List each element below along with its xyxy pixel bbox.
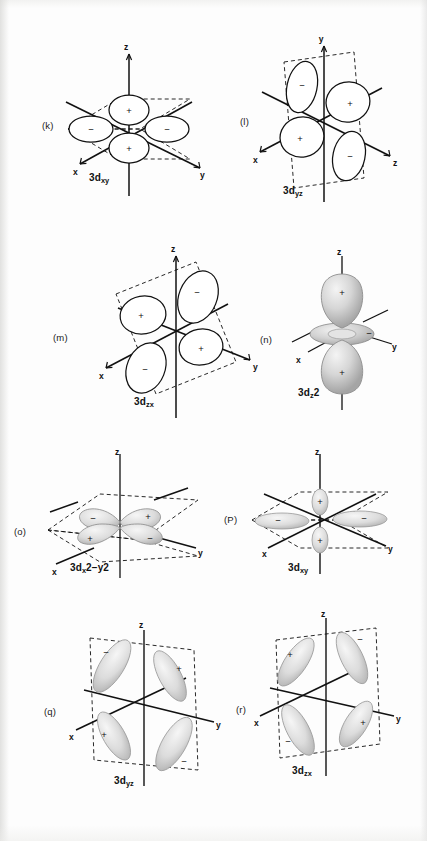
reference-plane-o-upper — [48, 494, 198, 540]
orbital-sub-m: zx — [146, 400, 154, 409]
sign-n-top: + — [339, 287, 345, 298]
panel-q-drawing: − + + − z x y — [62, 620, 247, 805]
panel-letter-l: (l) — [240, 116, 249, 127]
lobe-n-top — [321, 274, 362, 328]
axis-label-z-r: z — [321, 609, 325, 619]
axis-label-x-n: x — [296, 355, 301, 365]
panel-p: + + − − z x y (P) 3dxy — [236, 452, 421, 602]
sign-q-upper-left: − — [103, 647, 109, 658]
sign-r-lower-right: + — [360, 717, 366, 728]
axis-label-x-o: x — [52, 567, 57, 577]
sign-p-right: − — [361, 513, 367, 524]
axis-label-x-l: x — [253, 155, 258, 165]
lobe-o-lower-right — [120, 524, 162, 544]
orbital-label-q: 3dyz — [114, 775, 134, 788]
axis-label-y-o: y — [198, 548, 203, 558]
panel-letter-k: (k) — [42, 120, 54, 131]
panel-r-drawing: + − − + z x y — [248, 618, 423, 803]
axis-label-y-m: y — [253, 362, 258, 372]
axis-label-z-m: z — [171, 244, 175, 254]
sign-m-lower-right: + — [198, 343, 204, 354]
panel-l-drawing: − + + − y x z — [232, 30, 412, 215]
scan-edge-top — [0, 0, 427, 8]
panel-letter-r: (r) — [236, 704, 246, 715]
scan-edge-left — [0, 0, 9, 841]
panel-letter-p: (P) — [224, 514, 237, 525]
axis-label-y-n: y — [392, 342, 397, 352]
sign-q-upper-right: + — [176, 663, 182, 674]
sign-r-upper-left: + — [287, 649, 293, 660]
axis-label-x-r: x — [254, 718, 259, 728]
panel-o: − + + − z x y (o) 3dx2−y2 — [28, 452, 218, 602]
lobe-q-upper-left — [86, 634, 138, 698]
sign-o-upper-left: − — [90, 513, 96, 524]
orbital-sub-k: xy — [101, 176, 109, 185]
orbital-label-o: 3dx2−y2 — [70, 562, 109, 575]
sign-r-upper-right: − — [357, 634, 363, 645]
orbital-sup-o: 2−y2 — [86, 562, 109, 573]
sign-m-upper-right: − — [194, 287, 200, 298]
sign-q-lower-right: − — [181, 756, 187, 767]
orbital-sub-l: yz — [295, 189, 303, 198]
panel-letter-o: (o) — [14, 526, 26, 537]
sign-o-lower-right: − — [147, 533, 153, 544]
sign-l-upper-left: − — [299, 80, 305, 91]
panel-q: − + + − z x y (q) 3dyz — [62, 620, 247, 805]
torus-inner-n — [328, 329, 356, 339]
panel-k-drawing: + + − − z x y — [40, 36, 220, 206]
orbital-label-r: 3dzx — [292, 765, 312, 778]
panel-o-drawing: − + + − z x y — [28, 452, 218, 602]
figure-page: + + − − z x y (k) 3dxy — [0, 0, 427, 841]
axis-y-n-upper — [363, 310, 388, 322]
axis-x-o-seg — [50, 502, 78, 512]
sign-l-lower-right: − — [347, 151, 353, 162]
panel-l: − + + − y x z (l) 3dyz — [232, 30, 412, 215]
orbital-sub-r: zx — [304, 769, 312, 778]
axis-label-y-k: y — [200, 170, 205, 180]
axis-label-x-m: x — [99, 371, 104, 381]
sign-n-torus: − — [366, 328, 372, 339]
orbital-label-m: 3dzx — [134, 396, 154, 409]
lobe-r-lower-left — [275, 700, 321, 760]
sign-k-left: − — [88, 124, 94, 135]
sign-r-lower-left: − — [285, 736, 291, 747]
axis-label-y-q: y — [216, 720, 221, 730]
lobe-r-upper-left — [271, 633, 321, 692]
panel-n: + + − z x y (n) 3dz2 — [268, 248, 418, 428]
orbital-sub-p: xy — [300, 566, 308, 575]
sign-q-lower-left: + — [101, 729, 107, 740]
lobe-q-upper-right — [147, 646, 193, 706]
sign-l-upper-right: + — [347, 98, 353, 109]
sign-m-lower-left: − — [142, 364, 148, 375]
sign-k-right: − — [164, 124, 170, 135]
lobe-p-left — [255, 513, 309, 529]
panel-n-drawing: + + − z x y — [268, 248, 418, 428]
panel-letter-n: (n) — [260, 334, 272, 345]
orbital-label-l: 3dyz — [283, 185, 303, 198]
sign-k-top: + — [126, 105, 132, 116]
orbital-sub-q: yz — [126, 779, 134, 788]
lobe-o-lower-left — [78, 524, 120, 544]
axis-label-y-l: y — [319, 34, 324, 44]
panel-letter-m: (m) — [53, 332, 68, 343]
scan-edge-bottom — [0, 825, 427, 841]
sign-p-top: + — [317, 496, 323, 507]
panel-letter-q: (q) — [44, 706, 56, 717]
axis-label-z-l: z — [393, 158, 397, 168]
axis-label-y-r: y — [396, 714, 401, 724]
axis-label-z-o: z — [115, 447, 119, 457]
lobe-q-lower-right — [149, 712, 200, 776]
lobe-q-lower-left — [91, 707, 137, 765]
orbital-label-k: 3dxy — [89, 172, 109, 185]
sign-n-bottom: + — [339, 367, 345, 378]
axis-label-x-p: x — [262, 549, 267, 559]
panel-p-drawing: + + − − z x y — [236, 452, 421, 602]
orbital-label-p: 3dxy — [288, 562, 308, 575]
panel-m-drawing: − + + − z x y — [88, 242, 278, 432]
panel-k: + + − − z x y (k) 3dxy — [40, 36, 220, 206]
sign-p-bottom: + — [317, 535, 323, 546]
panel-r: + − − + z x y (r) 3dzx — [248, 618, 423, 803]
sign-k-bottom: + — [126, 143, 132, 154]
axis-label-z-q: z — [139, 620, 143, 630]
axis-label-x-k: x — [73, 167, 78, 177]
